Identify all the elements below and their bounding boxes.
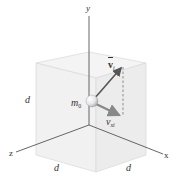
cube-left-face bbox=[36, 63, 96, 172]
initial-velocity-sub: i bbox=[113, 65, 115, 71]
initial-velocity-label: vi bbox=[108, 60, 115, 71]
cube-right-face bbox=[96, 63, 146, 172]
y-axis-label: y bbox=[86, 4, 90, 13]
x-component-sub: xi bbox=[110, 122, 114, 128]
cube-height-label: d bbox=[25, 95, 30, 105]
z-axis-label: z bbox=[9, 149, 13, 158]
cube-front-right-label: d bbox=[126, 163, 131, 173]
x-axis-label: x bbox=[164, 151, 169, 160]
particle-sphere bbox=[86, 95, 98, 107]
x-component-label: vxi bbox=[106, 117, 115, 128]
particle-mass-sub: 0 bbox=[78, 103, 81, 109]
initial-velocity-main: v bbox=[108, 59, 113, 70]
cube-front-left-label: d bbox=[54, 163, 59, 173]
cube bbox=[36, 52, 146, 172]
diagram-graphics bbox=[0, 0, 184, 183]
cube-velocity-diagram: y x z d d d m0 vi vxi bbox=[0, 0, 184, 183]
particle-mass-label: m0 bbox=[71, 98, 81, 109]
